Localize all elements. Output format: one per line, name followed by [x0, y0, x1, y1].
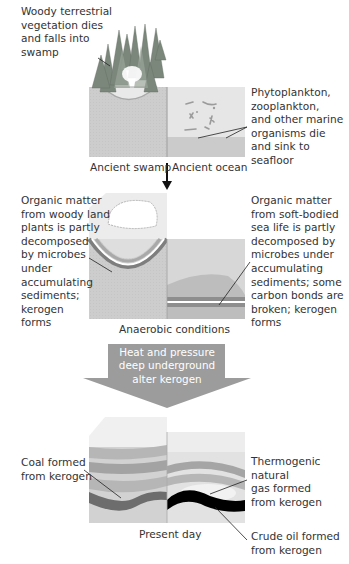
stage1-ocean-block: [167, 87, 245, 157]
caption-ancient-ocean: Ancient ocean: [172, 161, 248, 174]
stage2-ocean-block: [167, 239, 245, 319]
caption-ancient-swamp: Ancient swamp: [90, 161, 171, 174]
label-coal: Coal formed from kerogen: [21, 456, 92, 483]
label-natural-gas: Thermogenic natural gas formed from kero…: [251, 455, 322, 509]
stage1-swamp-block: [89, 87, 167, 157]
label-sea-life-organic-matter: Organic matter from soft-bodied sea life…: [251, 194, 344, 330]
label-marine-organisms: Phytoplankton, zooplankton, and other ma…: [251, 86, 343, 168]
label-crude-oil: Crude oil formed from kerogen: [251, 530, 340, 557]
label-woody-organic-matter: Organic matter from woody land plants is…: [21, 194, 110, 330]
process-arrow-text: Heat and pressure deep underground alter…: [100, 346, 234, 386]
caption-present-day: Present day: [139, 528, 202, 541]
caption-anaerobic-conditions: Anaerobic conditions: [119, 323, 230, 336]
stage3-right-block: [167, 432, 245, 523]
label-woody-vegetation: Woody terrestrial vegetation dies and fa…: [21, 5, 112, 59]
stage3-left-block: [89, 417, 167, 523]
